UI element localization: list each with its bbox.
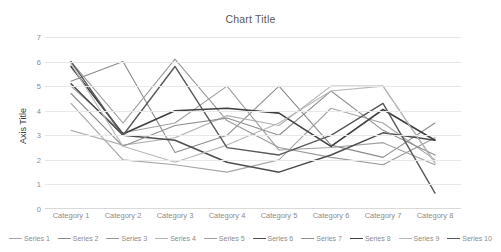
series-line	[71, 86, 435, 165]
legend-label: Series 9	[414, 235, 440, 242]
legend-item[interactable]: Series 1	[9, 235, 50, 242]
x-axis-tick-label: Category 2	[97, 211, 149, 225]
legend-label: Series 4	[170, 235, 196, 242]
y-axis-tick-label: 4	[9, 107, 41, 116]
x-axis-tick-label: Category 6	[305, 211, 357, 225]
y-axis-tick-label: 7	[9, 33, 41, 42]
gridline	[45, 160, 461, 161]
y-axis-ticks: 01234567	[0, 37, 41, 209]
gridline	[45, 135, 461, 136]
x-axis-tick-label: Category 7	[357, 211, 409, 225]
gridline	[45, 184, 461, 185]
y-axis-tick-label: 2	[9, 156, 41, 165]
x-axis-tick-label: Category 5	[253, 211, 305, 225]
y-axis-tick-label: 5	[9, 82, 41, 91]
legend-item[interactable]: Series 8	[350, 235, 391, 242]
legend-swatch-icon	[106, 238, 119, 239]
legend-swatch-icon	[9, 238, 22, 239]
series-line	[71, 62, 435, 193]
y-axis-tick-label: 1	[9, 180, 41, 189]
legend-swatch-icon	[204, 238, 217, 239]
legend-label: Series 7	[316, 235, 342, 242]
legend-swatch-icon	[155, 238, 168, 239]
legend-item[interactable]: Series 4	[155, 235, 196, 242]
legend-label: Series 2	[73, 235, 99, 242]
legend-label: Series 5	[219, 235, 245, 242]
plot-area	[45, 37, 461, 209]
x-axis-tick-label: Category 4	[201, 211, 253, 225]
legend-swatch-icon	[253, 238, 266, 239]
series-line	[71, 64, 435, 164]
x-axis-labels: Category 1Category 2Category 3Category 4…	[45, 211, 461, 225]
legend-swatch-icon	[58, 238, 71, 239]
legend-label: Series 8	[365, 235, 391, 242]
y-axis-tick-label: 6	[9, 58, 41, 67]
x-axis-tick-label: Category 8	[409, 211, 461, 225]
x-axis-tick-label: Category 3	[149, 211, 201, 225]
chart-legend: Series 1Series 2Series 3Series 4Series 5…	[0, 231, 501, 245]
legend-swatch-icon	[350, 238, 363, 239]
series-line	[71, 91, 435, 155]
legend-item[interactable]: Series 6	[253, 235, 294, 242]
legend-label: Series 10	[462, 235, 492, 242]
legend-item[interactable]: Series 5	[204, 235, 245, 242]
series-line	[71, 103, 435, 172]
legend-item[interactable]: Series 2	[58, 235, 99, 242]
legend-swatch-icon	[301, 238, 314, 239]
legend-item[interactable]: Series 10	[447, 235, 492, 242]
legend-swatch-icon	[399, 238, 412, 239]
chart-title: Chart Title	[0, 13, 501, 25]
line-chart: Chart Title Axis Title 01234567 Category…	[0, 0, 501, 252]
legend-label: Series 1	[24, 235, 50, 242]
legend-item[interactable]: Series 3	[106, 235, 147, 242]
gridline	[45, 62, 461, 63]
x-axis-line	[45, 208, 461, 209]
legend-label: Series 6	[268, 235, 294, 242]
legend-label: Series 3	[121, 235, 147, 242]
y-axis-tick-label: 3	[9, 131, 41, 140]
gridline	[45, 86, 461, 87]
legend-item[interactable]: Series 9	[399, 235, 440, 242]
gridline	[45, 37, 461, 38]
x-axis-tick-label: Category 1	[45, 211, 97, 225]
series-lines	[45, 37, 461, 209]
legend-swatch-icon	[447, 238, 460, 239]
y-axis-tick-label: 0	[9, 205, 41, 214]
gridline	[45, 111, 461, 112]
legend-item[interactable]: Series 7	[301, 235, 342, 242]
